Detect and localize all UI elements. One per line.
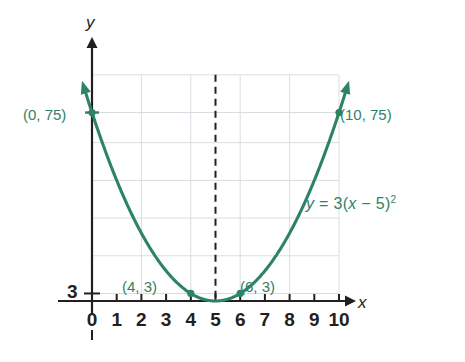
- point-label-6-3: (6, 3): [240, 279, 275, 294]
- equation-exponent: 2: [391, 194, 397, 205]
- parabola-graph-figure: y x 3 012345678910 (0, 75) (10, 75) (4, …: [0, 0, 465, 362]
- equation-coefficient: 3(: [333, 195, 348, 212]
- x-tick-label-10: 10: [325, 310, 353, 329]
- y-axis-tick-label-3: 3: [67, 282, 78, 301]
- equation-minus: −: [361, 195, 371, 212]
- y-axis-label: y: [86, 14, 95, 31]
- equation-annotation: y = 3(x − 5)2: [306, 196, 396, 212]
- equation-rhs: 5): [376, 195, 391, 212]
- equation-equals-sign: =: [319, 195, 329, 212]
- point-label-4-3: (4, 3): [122, 279, 157, 294]
- point-label-0-75: (0, 75): [23, 107, 66, 122]
- x-axis-label: x: [358, 294, 367, 311]
- point-label-10-75: (10, 75): [340, 107, 392, 122]
- graph-canvas: [0, 0, 465, 362]
- equation-variable: x: [348, 195, 356, 212]
